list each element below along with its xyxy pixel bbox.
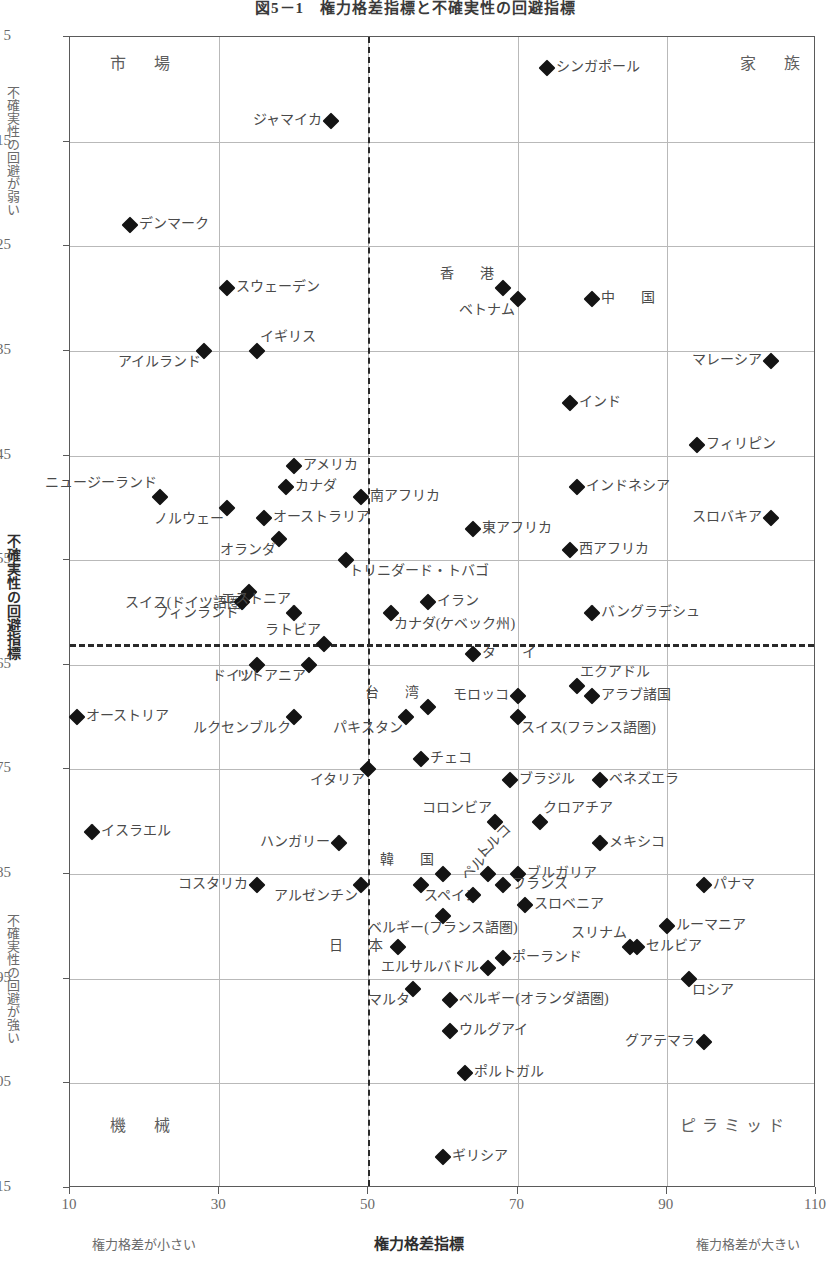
data-point-label: バングラデシュ [601,605,700,619]
data-point-label: パナマ [713,877,755,891]
data-point-label: アラブ諸国 [601,688,671,702]
data-point-label: スロベニア [534,897,604,911]
diamond-marker-icon [696,1033,713,1050]
data-point-label: スイス(フランス語圏) [521,721,656,735]
diamond-marker-icon [688,437,705,454]
y-tick-mark [63,141,70,142]
y-axis-top-note: 不確実性の回避が弱い [6,86,19,216]
y-tick-mark [63,768,70,769]
y-tick-mark [63,245,70,246]
gridline-horizontal [70,979,814,980]
diamond-marker-icon [584,604,601,621]
data-point-label: オーストリア [86,709,169,723]
y-tick-label: 75 [0,759,11,776]
data-point-label: エルサルバドル [381,960,479,974]
y-tick-label: 85 [0,864,11,881]
data-point-label: カナダ [295,479,337,493]
y-tick-label: 15 [0,132,11,149]
data-point-label: ルーマニア [676,918,746,932]
y-tick-label: 55 [0,550,11,567]
data-point-label: ルクセンブルク [193,721,291,735]
x-tick-mark [218,1187,219,1194]
gridline-horizontal [70,665,814,666]
diamond-marker-icon [591,834,608,851]
x-axis-title: 権力格差指標 [374,1232,464,1253]
data-point-label: 中 国 [601,291,661,305]
y-tick-mark [63,873,70,874]
diamond-marker-icon [285,458,302,475]
gridline-horizontal [70,560,814,561]
diamond-marker-icon [763,353,780,370]
y-tick-label: 105 [0,1073,11,1090]
gridline-horizontal [70,769,814,770]
data-point-label: ベトナム [459,303,515,317]
data-point-label: イギリス [260,330,316,344]
data-point-label: 日 本 [329,939,389,953]
diamond-marker-icon [315,635,332,652]
y-tick-mark [63,350,70,351]
diamond-marker-icon [435,1148,452,1165]
data-point-label: メキシコ [609,835,665,849]
gridline-horizontal [70,246,814,247]
diamond-marker-icon [531,813,548,830]
diamond-marker-icon [255,510,272,527]
data-point-label: スロバキア [692,510,762,524]
x-tick-label: 110 [785,1196,831,1213]
data-point-label: アメリカ [303,458,358,472]
data-point-label: 台 湾 [365,686,425,700]
x-axis-left-note: 権力格差が小さい [92,1234,196,1253]
diamond-marker-icon [561,541,578,558]
data-point-label: グアテマラ [625,1034,695,1048]
diamond-marker-icon [479,960,496,977]
y-tick-label: 45 [0,446,11,463]
x-tick-label: 50 [337,1196,397,1213]
diamond-marker-icon [121,217,138,234]
x-axis-right-note: 権力格差が大きい [696,1234,800,1253]
diamond-marker-icon [218,280,235,297]
gridline-horizontal [70,456,814,457]
data-point-label: タ イ [482,646,542,660]
x-tick-label: 70 [487,1196,547,1213]
data-point-label: エストニア [221,592,291,606]
diamond-marker-icon [569,478,586,495]
y-tick-mark [63,455,70,456]
gridline-horizontal [70,1083,814,1084]
diamond-marker-icon [457,1064,474,1081]
data-point-label: ブラジル [519,772,575,786]
data-point-label: スリナム [571,926,627,940]
data-point-label: オーストラリア [273,510,370,524]
data-point-label: トリニダード・トバゴ [349,564,489,578]
diamond-marker-icon [494,876,511,893]
diamond-marker-icon [151,489,168,506]
data-point-label: チェコ [430,751,472,765]
data-point-label: フィンランド [155,606,239,620]
data-point-label: リトアニア [236,669,306,683]
data-point-label: 南アフリカ [370,489,440,503]
data-point-label: ニュージーランド [45,476,157,490]
diamond-marker-icon [442,1023,459,1040]
x-tick-mark [517,1187,518,1194]
data-point-label: イラン [437,594,479,608]
y-tick-label: 25 [0,236,11,253]
data-point-label: ベルギー(オランダ語圏) [459,992,608,1006]
data-point-label: デンマーク [139,217,209,231]
data-point-label: クロアチア [543,801,613,815]
diamond-marker-icon [539,60,556,77]
data-point-label: マルタ [368,993,410,1007]
diamond-marker-icon [248,342,265,359]
y-tick-label: 95 [0,969,11,986]
y-tick-label: 5 [0,27,11,44]
y-tick-label: 65 [0,655,11,672]
data-point-label: ラトビア [265,623,321,637]
diamond-marker-icon [494,949,511,966]
diamond-marker-icon [420,594,437,611]
quadrant-label-pyramid: ピラミッド [680,1112,790,1136]
data-point-label: 東アフリカ [482,521,552,535]
data-point-label: ノルウェー [154,512,224,526]
quadrant-label-family: 家 族 [740,50,806,74]
diamond-marker-icon [412,750,429,767]
diamond-marker-icon [278,478,295,495]
x-tick-label: 10 [39,1196,99,1213]
chart-title: 図5－1 権力格差指標と不確実性の回避指標 [0,0,831,16]
diamond-marker-icon [330,834,347,851]
